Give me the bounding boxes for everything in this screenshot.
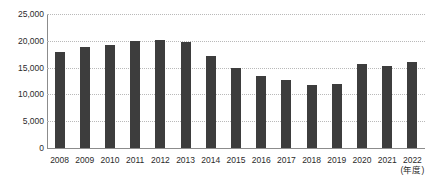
x-axis-tick-labels: 2008200920102011201220132014201520162017… <box>47 151 425 165</box>
x-tick-label: 2011 <box>123 155 148 165</box>
bar <box>231 68 241 148</box>
x-tick-label: 2021 <box>375 155 400 165</box>
bar <box>80 47 90 148</box>
x-tick-label: 2018 <box>299 155 324 165</box>
y-axis-tick-labels: 25,00020,00015,00010,0005,0000 <box>0 14 44 148</box>
bar <box>105 45 115 148</box>
x-tick-label: 2008 <box>47 155 72 165</box>
y-tick-label: 0 <box>0 143 44 153</box>
bar <box>130 41 140 148</box>
x-tick-label: 2010 <box>97 155 122 165</box>
bar <box>155 40 165 148</box>
bar <box>281 80 291 148</box>
x-tick-label: 2020 <box>349 155 374 165</box>
x-tick-label: 2019 <box>324 155 349 165</box>
bar <box>181 42 191 148</box>
bar-slot <box>324 14 349 148</box>
bar-slot <box>249 14 274 148</box>
axis-baseline <box>47 148 425 149</box>
x-tick-label: 2009 <box>72 155 97 165</box>
x-tick-label: 2013 <box>173 155 198 165</box>
bar-slot <box>148 14 173 148</box>
bar-slot <box>72 14 97 148</box>
bar <box>407 62 417 148</box>
x-tick-label: 2017 <box>274 155 299 165</box>
x-tick-label: 2016 <box>249 155 274 165</box>
bar-slot <box>198 14 223 148</box>
bar-slot <box>123 14 148 148</box>
bar <box>256 76 266 148</box>
bar-slot <box>299 14 324 148</box>
bar-slot <box>274 14 299 148</box>
y-tick-label: 25,000 <box>0 9 44 19</box>
x-axis-unit-label: (年度) <box>400 163 425 175</box>
y-tick-label: 20,000 <box>0 36 44 46</box>
y-tick-label: 15,000 <box>0 63 44 73</box>
bar-slot <box>400 14 425 148</box>
bar <box>332 84 342 148</box>
x-tick-label: 2015 <box>223 155 248 165</box>
plot-area <box>47 14 425 148</box>
bar-slot <box>375 14 400 148</box>
bar-slot <box>349 14 374 148</box>
y-tick-label: 10,000 <box>0 89 44 99</box>
bar-slot <box>97 14 122 148</box>
bar <box>357 64 367 148</box>
y-tick-label: 5,000 <box>0 116 44 126</box>
x-tick-label: 2012 <box>148 155 173 165</box>
bar-slot <box>173 14 198 148</box>
bar <box>307 85 317 148</box>
bar <box>55 52 65 148</box>
bar <box>382 66 392 148</box>
bar <box>206 56 216 148</box>
bar-chart-figure: 25,00020,00015,00010,0005,0000 200820092… <box>0 0 433 187</box>
bar-slot <box>47 14 72 148</box>
bar-slot <box>223 14 248 148</box>
x-tick-label: 2014 <box>198 155 223 165</box>
